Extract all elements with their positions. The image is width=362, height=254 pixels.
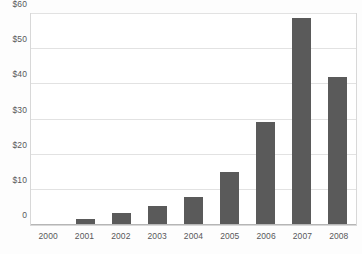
x-axis-tick-label: 2001 xyxy=(66,231,102,247)
x-axis-tick-label: 2003 xyxy=(139,231,175,247)
bar[interactable] xyxy=(256,122,275,225)
x-axis-tick-label: 2007 xyxy=(284,231,320,247)
bar-chart: 0$10$20$30$40$50$60 20002001200220032004… xyxy=(0,0,362,254)
bar-series xyxy=(31,14,356,225)
bar[interactable] xyxy=(292,18,311,225)
bar[interactable] xyxy=(184,197,203,225)
y-axis-tick-label: $60 xyxy=(13,0,27,9)
bar-slot xyxy=(31,14,67,225)
plot-area: 0$10$20$30$40$50$60 xyxy=(30,13,357,226)
x-axis-tick-label: 2000 xyxy=(30,231,66,247)
x-axis-tick-label: 2006 xyxy=(248,231,284,247)
x-axis-line xyxy=(31,224,356,225)
x-axis-tick-label: 2005 xyxy=(212,231,248,247)
bar-slot xyxy=(284,14,320,225)
bar[interactable] xyxy=(148,206,167,225)
bar-slot xyxy=(67,14,103,225)
x-axis-tick-label: 2002 xyxy=(103,231,139,247)
bar-slot xyxy=(320,14,356,225)
bar-slot xyxy=(212,14,248,225)
bar[interactable] xyxy=(220,172,239,225)
y-axis-tick-label: 0 xyxy=(22,210,27,220)
bar-slot xyxy=(175,14,211,225)
bar-slot xyxy=(139,14,175,225)
x-axis-tick-label: 2008 xyxy=(321,231,357,247)
y-axis-tick-label: $40 xyxy=(13,69,27,79)
y-axis-tick-label: $30 xyxy=(13,105,27,115)
bar[interactable] xyxy=(328,77,347,225)
x-axis-tick-label: 2004 xyxy=(175,231,211,247)
bar-slot xyxy=(248,14,284,225)
y-axis-tick-label: $10 xyxy=(13,175,27,185)
x-axis-tick-labels: 200020012002200320042005200620072008 xyxy=(30,231,357,247)
y-axis-tick-label: $50 xyxy=(13,34,27,44)
bar-slot xyxy=(103,14,139,225)
y-axis-tick-label: $20 xyxy=(13,140,27,150)
